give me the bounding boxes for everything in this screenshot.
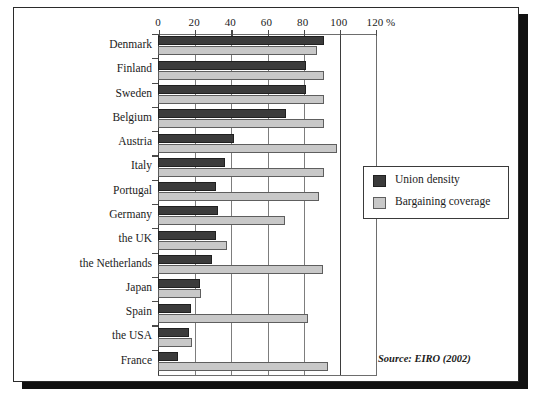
bar-row: the UK	[14, 228, 518, 252]
bar-bargaining-coverage-denmark	[158, 46, 317, 55]
category-label-the-usa: the USA	[14, 329, 152, 341]
category-label-denmark: Denmark	[14, 38, 152, 50]
bar-bargaining-coverage-the-netherlands	[158, 265, 323, 274]
x-tick-label-0: 0	[155, 16, 161, 28]
y-tickmark-the-usa	[152, 325, 158, 326]
legend-label-union-density: Union density	[395, 173, 460, 185]
bar-union-density-austria	[158, 134, 234, 143]
bar-union-density-belgium	[158, 109, 286, 118]
y-tickmark-portugal	[152, 180, 158, 181]
bar-row: the Netherlands	[14, 253, 518, 277]
y-tickmark-france	[152, 350, 158, 351]
bar-bargaining-coverage-the-uk	[158, 241, 227, 250]
bar-bargaining-coverage-austria	[158, 144, 337, 153]
category-label-finland: Finland	[14, 62, 152, 74]
y-tickmark-the-uk	[152, 228, 158, 229]
y-tickmark-germany	[152, 204, 158, 205]
bar-row: the USA	[14, 325, 518, 349]
category-label-japan: Japan	[14, 281, 152, 293]
bar-row: Sweden	[14, 83, 518, 107]
x-tick-label-60: 60	[261, 16, 272, 28]
plot-area: 020406080100120% DenmarkFinlandSwedenBel…	[14, 8, 518, 381]
bar-row: Belgium	[14, 107, 518, 131]
bar-row: Japan	[14, 277, 518, 301]
chart-frame: 020406080100120% DenmarkFinlandSwedenBel…	[13, 7, 519, 382]
bar-bargaining-coverage-france	[158, 362, 328, 371]
category-label-portugal: Portugal	[14, 184, 152, 196]
y-tickmark-austria	[152, 131, 158, 132]
bar-row: Austria	[14, 131, 518, 155]
y-tickmark-denmark	[152, 34, 158, 35]
source-note: Source: EIRO (2002)	[378, 353, 471, 364]
bar-bargaining-coverage-sweden	[158, 95, 324, 104]
category-label-belgium: Belgium	[14, 111, 152, 123]
y-tickmark-belgium	[152, 107, 158, 108]
bar-bargaining-coverage-finland	[158, 71, 324, 80]
figure-root: 020406080100120% DenmarkFinlandSwedenBel…	[0, 0, 538, 406]
category-label-sweden: Sweden	[14, 87, 152, 99]
y-tickmark-finland	[152, 58, 158, 59]
bar-row: Finland	[14, 58, 518, 82]
category-label-germany: Germany	[14, 208, 152, 220]
bar-union-density-italy	[158, 158, 225, 167]
category-label-italy: Italy	[14, 159, 152, 171]
bar-row: Denmark	[14, 34, 518, 58]
category-label-the-netherlands: the Netherlands	[14, 257, 152, 269]
bar-union-density-the-netherlands	[158, 255, 212, 264]
bar-union-density-japan	[158, 279, 200, 288]
bar-union-density-france	[158, 352, 178, 361]
x-tick-label-120: 120	[366, 16, 383, 28]
bar-union-density-denmark	[158, 36, 324, 45]
x-tick-label-80: 80	[297, 16, 308, 28]
legend-label-bargaining-coverage: Bargaining coverage	[395, 195, 490, 207]
x-tick-label-100: 100	[330, 16, 347, 28]
bar-bargaining-coverage-belgium	[158, 119, 324, 128]
bar-union-density-the-uk	[158, 231, 216, 240]
bar-union-density-germany	[158, 206, 218, 215]
y-tickmark-spain	[152, 301, 158, 302]
bar-union-density-sweden	[158, 85, 306, 94]
y-tickmark-sweden	[152, 83, 158, 84]
bar-bargaining-coverage-japan	[158, 289, 201, 298]
bar-bargaining-coverage-germany	[158, 216, 285, 225]
category-label-france: France	[14, 354, 152, 366]
bar-union-density-the-usa	[158, 328, 189, 337]
bar-union-density-portugal	[158, 182, 216, 191]
bar-bargaining-coverage-portugal	[158, 192, 319, 201]
legend-swatch-icon-union-density	[373, 175, 386, 187]
chart-legend: Union density Bargaining coverage	[363, 166, 509, 219]
bar-bargaining-coverage-italy	[158, 168, 324, 177]
bar-union-density-finland	[158, 61, 306, 70]
figure-shadow-right	[519, 14, 528, 389]
category-label-the-uk: the UK	[14, 232, 152, 244]
x-tick-label-40: 40	[225, 16, 236, 28]
y-tickmark-japan	[152, 277, 158, 278]
bar-bargaining-coverage-the-usa	[158, 338, 192, 347]
x-tick-label-20: 20	[188, 16, 199, 28]
x-axis-tick-labels: 020406080100120%	[14, 16, 518, 32]
legend-swatch-icon-bargaining-coverage	[373, 197, 386, 209]
category-label-spain: Spain	[14, 305, 152, 317]
category-label-austria: Austria	[14, 135, 152, 147]
bar-row: Spain	[14, 301, 518, 325]
bar-union-density-spain	[158, 304, 191, 313]
bar-bargaining-coverage-spain	[158, 314, 308, 323]
x-axis-unit-label: %	[386, 16, 395, 28]
y-tickmark-the-netherlands	[152, 253, 158, 254]
y-tickmark-italy	[152, 155, 158, 156]
